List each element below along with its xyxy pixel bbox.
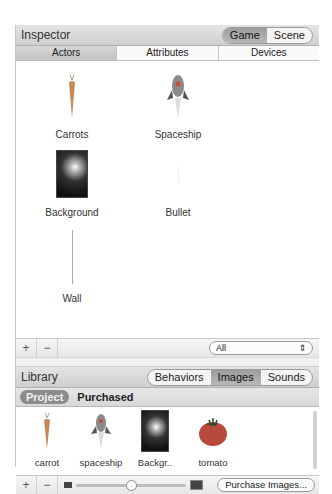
panel-splitter[interactable]: [16, 357, 319, 367]
purchase-images-button[interactable]: Purchase Images...: [217, 478, 315, 492]
inspector-header: Inspector Game Scene: [16, 25, 319, 46]
item-label: spaceship: [76, 457, 126, 468]
carrot-icon: [43, 412, 51, 450]
tomato-icon: [197, 414, 229, 448]
inspector-title: Inspector: [21, 28, 70, 42]
slider-knob[interactable]: [126, 480, 137, 491]
item-label: Backgr..: [130, 457, 180, 468]
actors-footer: + − All ⇕: [16, 338, 319, 357]
actors-grid: Carrots Spaceship Background B: [16, 61, 319, 338]
tab-attributes[interactable]: Attributes: [117, 46, 218, 60]
filter-value: All: [216, 343, 226, 353]
tab-actors[interactable]: Actors: [16, 46, 117, 60]
actor-label: Bullet: [138, 207, 218, 218]
thumbnail-size-slider[interactable]: [76, 484, 186, 487]
gamesalad-window: Inspector Game Scene Actors Attributes D…: [15, 25, 319, 467]
small-thumbnail-icon: [64, 482, 72, 488]
library-scrollbar[interactable]: [313, 411, 317, 469]
library-header: Library Behaviors Images Sounds: [16, 367, 319, 388]
inspector-tabs: Actors Attributes Devices: [16, 46, 319, 61]
spaceship-icon: [90, 412, 112, 450]
toggle-sounds[interactable]: Sounds: [261, 370, 312, 385]
add-actor-button[interactable]: +: [16, 339, 37, 357]
toggle-game[interactable]: Game: [223, 28, 267, 43]
library-subtabs: Project Purchased: [16, 388, 319, 407]
bullet-icon: [178, 166, 179, 182]
remove-image-button[interactable]: −: [37, 476, 58, 494]
item-label: tomato: [188, 457, 238, 468]
library-item-tomato[interactable]: tomato: [188, 411, 238, 468]
subtab-purchased[interactable]: Purchased: [77, 391, 133, 403]
library-title: Library: [21, 370, 58, 384]
spaceship-icon: [165, 72, 191, 120]
actor-background[interactable]: Background: [32, 149, 112, 218]
background-image: [56, 150, 88, 198]
actor-bullet[interactable]: Bullet: [138, 149, 218, 218]
toggle-images[interactable]: Images: [211, 370, 261, 385]
actor-spaceship[interactable]: Spaceship: [138, 71, 218, 140]
remove-actor-button[interactable]: −: [37, 339, 58, 357]
library-footer: + − Purchase Images...: [16, 475, 319, 494]
actor-wall[interactable]: Wall: [32, 229, 112, 304]
background-image: [141, 410, 169, 452]
item-label: carrot: [22, 457, 72, 468]
carrot-icon: [67, 72, 77, 120]
toggle-scene[interactable]: Scene: [267, 28, 312, 43]
updown-arrows-icon: ⇕: [298, 343, 306, 353]
library-item-carrot[interactable]: carrot: [22, 411, 72, 468]
library-item-background[interactable]: Backgr..: [130, 411, 180, 468]
actor-filter-select[interactable]: All ⇕: [209, 341, 313, 355]
large-thumbnail-icon: [190, 480, 203, 490]
actor-label: Wall: [32, 293, 112, 304]
actor-label: Background: [32, 207, 112, 218]
tab-devices[interactable]: Devices: [219, 46, 319, 60]
actor-label: Spaceship: [138, 129, 218, 140]
library-mode-toggle: Behaviors Images Sounds: [147, 369, 313, 386]
toggle-behaviors[interactable]: Behaviors: [148, 370, 211, 385]
actor-label: Carrots: [32, 129, 112, 140]
actor-carrots[interactable]: Carrots: [32, 71, 112, 140]
wall-icon: [72, 230, 73, 284]
add-image-button[interactable]: +: [16, 476, 37, 494]
library-images-grid: carrot spaceship Backgr..: [16, 407, 319, 475]
subtab-project[interactable]: Project: [20, 390, 69, 404]
game-scene-toggle: Game Scene: [222, 27, 313, 44]
library-item-spaceship[interactable]: spaceship: [76, 411, 126, 468]
